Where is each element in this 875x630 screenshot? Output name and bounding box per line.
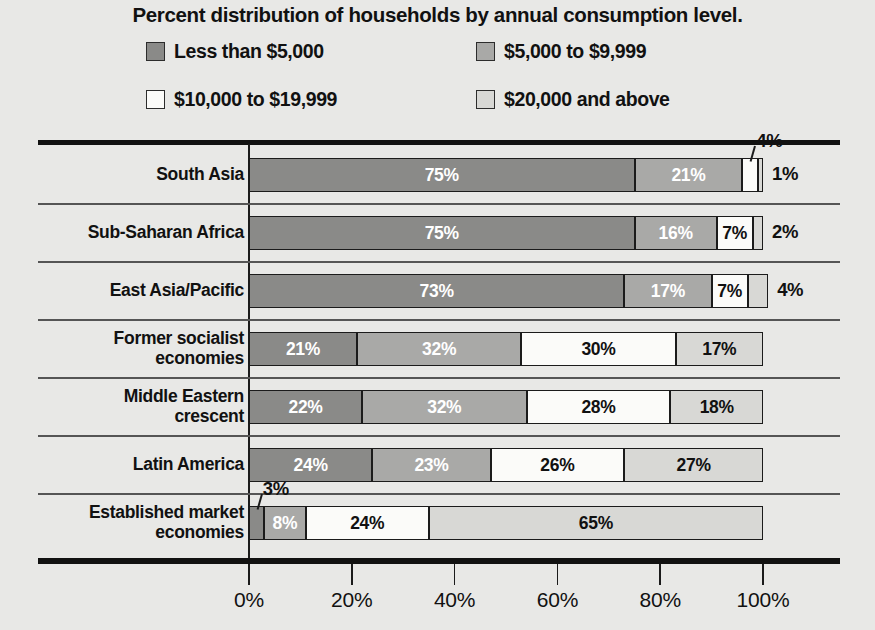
bar-segment-series2: 8% bbox=[264, 506, 305, 540]
bar-segment-series2: 21% bbox=[635, 158, 743, 192]
axis-tick-label: 80% bbox=[639, 588, 680, 612]
chart-legend: Less than $5,000 $5,000 to $9,999 $10,00… bbox=[0, 36, 875, 128]
bar-segment-series1: 75% bbox=[249, 158, 635, 192]
row-category-label-line: Sub-Saharan Africa bbox=[88, 223, 244, 243]
stacked-bar: 24%23%26%27% bbox=[249, 448, 763, 482]
axis-tick-mark bbox=[248, 564, 250, 585]
row-separator bbox=[38, 261, 840, 263]
bar-segment-series1: 22% bbox=[249, 390, 362, 424]
bar-segment-series4: 27% bbox=[624, 448, 763, 482]
stacked-bar: 3%8%24%65% bbox=[249, 506, 763, 540]
bar-segment-value-label: 24% bbox=[350, 513, 384, 534]
legend-item-5000-to-9999: $5,000 to $9,999 bbox=[476, 40, 646, 63]
bar-segment-series3: 7% bbox=[717, 216, 753, 250]
chart-row: Former socialisteconomies21%32%30%17% bbox=[0, 320, 875, 378]
row-category-label-line: crescent bbox=[174, 407, 244, 427]
bar-segment-value-label: 7% bbox=[717, 281, 742, 302]
bar-segment-series4: 4% bbox=[748, 274, 769, 308]
bar-segment-value-label: 8% bbox=[273, 513, 298, 534]
legend-label: $10,000 to $19,999 bbox=[174, 88, 337, 111]
bar-segment-outside-value-label: 1% bbox=[772, 163, 798, 185]
axis-tick-label: 40% bbox=[434, 588, 475, 612]
bar-segment-value-label: 75% bbox=[425, 165, 459, 186]
bar-segment-series1: 75% bbox=[249, 216, 635, 250]
legend-item-10000-to-19999: $10,000 to $19,999 bbox=[146, 88, 337, 111]
plot-top-rule bbox=[38, 140, 840, 145]
legend-label: $5,000 to $9,999 bbox=[504, 40, 646, 63]
bar-segment-series4: 2% bbox=[753, 216, 763, 250]
bar-segment-value-label: 26% bbox=[540, 455, 574, 476]
stacked-bar: 21%32%30%17% bbox=[249, 332, 763, 366]
bar-segment-series1: 21% bbox=[249, 332, 357, 366]
page-title: Percent distribution of households by an… bbox=[0, 3, 875, 27]
bar-segment-series3: 26% bbox=[491, 448, 625, 482]
bar-segment-value-label: 18% bbox=[700, 397, 734, 418]
bar-segment-series2: 32% bbox=[362, 390, 526, 424]
stacked-bar: 75%16%7%2% bbox=[249, 216, 763, 250]
legend-item-less-than-5000: Less than $5,000 bbox=[146, 40, 324, 63]
row-category-label-line: Latin America bbox=[133, 455, 244, 475]
bar-segment-series3: 24% bbox=[306, 506, 429, 540]
legend-label: $20,000 and above bbox=[504, 88, 670, 111]
bar-segment-value-label: 30% bbox=[581, 339, 615, 360]
bar-segment-series3: 30% bbox=[521, 332, 675, 366]
axis-tick-mark bbox=[659, 564, 661, 585]
bar-segment-series1: 73% bbox=[249, 274, 624, 308]
bar-segment-value-label: 73% bbox=[420, 281, 454, 302]
bar-segment-series2: 23% bbox=[372, 448, 490, 482]
row-category-label-line: Established market bbox=[89, 503, 244, 523]
bar-segment-value-label: 23% bbox=[414, 455, 448, 476]
row-category-label: Established marketeconomies bbox=[24, 494, 244, 552]
axis-tick-label: 0% bbox=[234, 588, 264, 612]
chart-row: Established marketeconomies3%3%8%24%65% bbox=[0, 494, 875, 552]
bar-segment-series2: 16% bbox=[635, 216, 717, 250]
chart-row: Middle Easterncrescent22%32%28%18% bbox=[0, 378, 875, 436]
chart-row: South Asia4%1%75%21%4%1% bbox=[0, 146, 875, 204]
legend-swatch-icon-series3 bbox=[146, 90, 165, 109]
bar-segment-series4: 65% bbox=[429, 506, 763, 540]
axis-tick-mark bbox=[762, 564, 764, 585]
bar-segment-value-label: 16% bbox=[659, 223, 693, 244]
bar-segment-value-label: 75% bbox=[425, 223, 459, 244]
bar-segment-callout-label: 3% bbox=[263, 478, 289, 500]
bar-segment-series3: 28% bbox=[527, 390, 671, 424]
row-category-label: Sub-Saharan Africa bbox=[24, 204, 244, 262]
bar-segment-value-label: 28% bbox=[581, 397, 615, 418]
bar-segment-value-label: 65% bbox=[579, 513, 613, 534]
bar-segment-value-label: 27% bbox=[677, 455, 711, 476]
bar-segment-series2: 32% bbox=[357, 332, 521, 366]
row-category-label: Middle Easterncrescent bbox=[24, 378, 244, 436]
bar-segment-callout-label: 4% bbox=[756, 130, 782, 152]
row-category-label: South Asia bbox=[24, 146, 244, 204]
bar-segment-series4: 18% bbox=[670, 390, 763, 424]
bar-segment-value-label: 17% bbox=[651, 281, 685, 302]
bar-segment-outside-value-label: 2% bbox=[772, 221, 798, 243]
bar-segment-series1: 3% bbox=[249, 506, 264, 540]
chart-row: Latin America24%23%26%27% bbox=[0, 436, 875, 494]
bar-segment-series4: 17% bbox=[676, 332, 763, 366]
row-separator bbox=[38, 493, 840, 495]
row-separator bbox=[38, 377, 840, 379]
bar-segment-value-label: 21% bbox=[671, 165, 705, 186]
legend-label: Less than $5,000 bbox=[174, 40, 324, 63]
bar-segment-series3: 4% bbox=[742, 158, 757, 192]
bar-segment-value-label: 22% bbox=[288, 397, 322, 418]
bar-segment-series2: 17% bbox=[624, 274, 711, 308]
row-separator bbox=[38, 203, 840, 205]
bar-segment-series4: 1% bbox=[758, 158, 763, 192]
stacked-bar: 73%17%7%4% bbox=[249, 274, 763, 308]
axis-tick-label: 60% bbox=[537, 588, 578, 612]
bar-segment-value-label: 32% bbox=[422, 339, 456, 360]
legend-swatch-icon-series2 bbox=[476, 42, 495, 61]
axis-tick-mark bbox=[454, 564, 456, 585]
row-category-label-line: Middle Eastern bbox=[124, 387, 244, 407]
chart-row: Sub-Saharan Africa2%75%16%7%2% bbox=[0, 204, 875, 262]
row-separator bbox=[38, 435, 840, 437]
row-category-label: Latin America bbox=[24, 436, 244, 494]
axis-tick-label: 100% bbox=[737, 588, 790, 612]
bar-segment-value-label: 17% bbox=[702, 339, 736, 360]
row-category-label-line: economies bbox=[155, 349, 244, 369]
row-separator bbox=[38, 319, 840, 321]
axis-tick-mark bbox=[351, 564, 353, 585]
bar-segment-value-label: 7% bbox=[722, 223, 747, 244]
